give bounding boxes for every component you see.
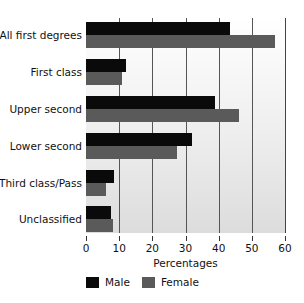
x-tick <box>285 236 286 241</box>
x-axis-label: Percentages <box>86 257 285 269</box>
x-tick <box>86 236 87 241</box>
x-tick <box>119 236 120 241</box>
gridline <box>186 18 187 233</box>
legend: MaleFemale <box>86 276 199 288</box>
plot-area <box>86 18 285 233</box>
bar-female <box>86 219 113 232</box>
category-label: First class <box>30 66 82 78</box>
bar-male <box>86 206 111 219</box>
x-tick-label: 40 <box>212 242 225 254</box>
legend-swatch-male <box>86 277 99 288</box>
gridline <box>252 18 253 233</box>
category-label: Third class/Pass <box>0 177 82 189</box>
bar-female <box>86 109 239 122</box>
bar-male <box>86 59 126 72</box>
legend-swatch-female <box>142 277 155 288</box>
bar-female <box>86 72 122 85</box>
bar-female <box>86 183 106 196</box>
legend-label-male: Male <box>105 276 130 288</box>
x-tick <box>219 236 220 241</box>
x-tick-label: 50 <box>245 242 258 254</box>
bar-female <box>86 35 275 48</box>
bar-male <box>86 170 114 183</box>
x-tick-label: 60 <box>278 242 291 254</box>
gridline <box>152 18 153 233</box>
legend-label-female: Female <box>161 276 199 288</box>
bar-male <box>86 96 215 109</box>
gridline <box>219 18 220 233</box>
category-label: Lower second <box>10 140 82 152</box>
x-tick-label: 0 <box>83 242 90 254</box>
category-label: All first degrees <box>0 29 82 41</box>
bar-male <box>86 22 230 35</box>
x-tick-label: 20 <box>146 242 159 254</box>
category-label: Unclassified <box>19 213 82 225</box>
x-tick <box>186 236 187 241</box>
x-tick <box>152 236 153 241</box>
category-label: Upper second <box>9 103 82 115</box>
x-tick-label: 30 <box>179 242 192 254</box>
gridline <box>119 18 120 233</box>
x-tick-label: 10 <box>112 242 125 254</box>
gridline <box>285 18 286 233</box>
bar-male <box>86 133 192 146</box>
x-tick <box>252 236 253 241</box>
bar-female <box>86 146 177 159</box>
